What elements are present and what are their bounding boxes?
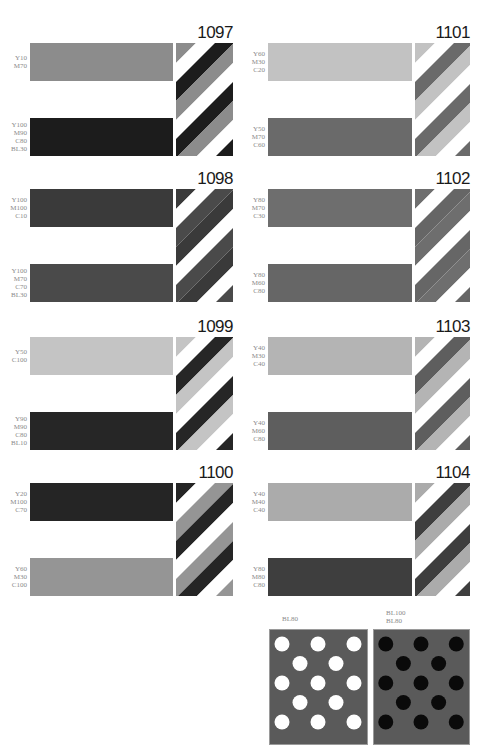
cmyk-label-bottom: Y40M60C80: [238, 419, 265, 443]
color-bar-top: [30, 337, 173, 375]
cmyk-value: C100: [0, 581, 27, 589]
cmyk-value: C80: [0, 431, 27, 439]
cmyk-value: C80: [238, 581, 265, 589]
swatch-card-1101: 1101Y60M30C20Y50M70C60: [238, 24, 478, 170]
cmyk-label-top: Y50C100: [0, 348, 27, 364]
color-bar-top: [268, 43, 412, 81]
cmyk-value: Y40: [238, 490, 265, 498]
diagonal-stripe-pattern: [176, 483, 233, 596]
color-bar-bottom: [30, 558, 173, 596]
cmyk-value: Y100: [0, 121, 27, 129]
diagonal-stripe-pattern: [415, 43, 470, 156]
cmyk-value: M90: [0, 423, 27, 431]
swatch-number: 1100: [176, 464, 233, 482]
cmyk-value: C80: [0, 137, 27, 145]
cmyk-label-top: Y10M70: [0, 54, 27, 70]
cmyk-value: M90: [0, 129, 27, 137]
color-bar-bottom: [268, 412, 412, 450]
cmyk-value: Y80: [238, 271, 265, 279]
swatch-number: 1102: [415, 170, 470, 188]
cmyk-label-bottom: Y80M80C80: [238, 565, 265, 589]
stripe-graphic: [415, 483, 470, 596]
cmyk-value: M30: [238, 58, 265, 66]
cmyk-label-top: Y40M30C40: [238, 344, 265, 368]
cmyk-value: M100: [0, 204, 27, 212]
cmyk-value: M70: [0, 275, 27, 283]
dot-pattern-panel: [270, 630, 367, 744]
cmyk-value: M70: [0, 62, 27, 70]
swatch-card-1098: 1098Y100M100C10Y100M70C70BL30: [0, 170, 240, 316]
cmyk-value: BL10: [0, 439, 27, 447]
cmyk-label-bottom: Y90M90C80BL10: [0, 415, 27, 447]
cmyk-value: Y20: [0, 490, 27, 498]
diagonal-stripe-pattern: [415, 483, 470, 596]
stripe-graphic: [415, 189, 470, 302]
cmyk-value: M70: [238, 204, 265, 212]
dot-panel-label: BL80: [282, 615, 298, 623]
cmyk-value: Y40: [238, 419, 265, 427]
cmyk-value: M30: [0, 573, 27, 581]
color-bar-top: [30, 483, 173, 521]
cmyk-label-top: Y60M30C20: [238, 50, 265, 74]
cmyk-value: BL30: [0, 291, 27, 299]
cmyk-value: C70: [0, 283, 27, 291]
swatch-number: 1098: [176, 170, 233, 188]
cmyk-value: Y90: [0, 415, 27, 423]
swatch-card-1103: 1103Y40M30C40Y40M60C80: [238, 318, 478, 464]
color-bar-bottom: [268, 264, 412, 302]
cmyk-value: M70: [238, 133, 265, 141]
diagonal-stripe-pattern: [176, 189, 233, 302]
cmyk-value: BL30: [0, 145, 27, 153]
stripe-graphic: [176, 189, 233, 302]
stripe-graphic: [176, 43, 233, 156]
cmyk-value: M60: [238, 279, 265, 287]
cmyk-label-bottom: Y60M30C100: [0, 565, 27, 589]
diagonal-stripe-pattern: [176, 43, 233, 156]
cmyk-value: Y50: [238, 125, 265, 133]
cmyk-value: M100: [0, 498, 27, 506]
swatch-card-1104: 1104Y40M40C40Y80M80C80: [238, 464, 478, 610]
swatch-number: 1097: [176, 24, 233, 42]
cmyk-value: C40: [238, 506, 265, 514]
cmyk-value: Y10: [0, 54, 27, 62]
blend-value: BL80: [282, 615, 298, 623]
color-bar-top: [268, 337, 412, 375]
color-bar-top: [268, 189, 412, 227]
color-bar-bottom: [30, 264, 173, 302]
cmyk-value: C40: [238, 360, 265, 368]
blend-value: BL80: [386, 617, 405, 625]
swatch-card-1099: 1099Y50C100Y90M90C80BL10: [0, 318, 240, 464]
cmyk-value: Y100: [0, 267, 27, 275]
swatch-number: 1101: [415, 24, 470, 42]
cmyk-value: Y80: [238, 196, 265, 204]
color-bar-bottom: [268, 118, 412, 156]
swatch-card-1100: 1100Y20M100C70Y60M30C100: [0, 464, 240, 610]
blend-value: BL100: [386, 609, 405, 617]
cmyk-value: M40: [238, 498, 265, 506]
diagonal-stripe-pattern: [415, 189, 470, 302]
color-bar-bottom: [30, 412, 173, 450]
stripe-graphic: [176, 483, 233, 596]
cmyk-label-bottom: Y100M70C70BL30: [0, 267, 27, 299]
swatch-card-1102: 1102Y80M70C30Y80M60C80: [238, 170, 478, 316]
diagonal-stripe-pattern: [176, 337, 233, 450]
swatch-card-1097: 1097Y10M70Y100M90C80BL30: [0, 24, 240, 170]
cmyk-value: C100: [0, 356, 27, 364]
cmyk-value: Y60: [238, 50, 265, 58]
cmyk-label-bottom: Y50M70C60: [238, 125, 265, 149]
cmyk-value: C80: [238, 287, 265, 295]
stripe-graphic: [415, 43, 470, 156]
stripe-graphic: [176, 337, 233, 450]
cmyk-value: C70: [0, 506, 27, 514]
diagonal-stripe-pattern: [415, 337, 470, 450]
color-bar-top: [268, 483, 412, 521]
cmyk-value: M60: [238, 427, 265, 435]
cmyk-value: Y50: [0, 348, 27, 356]
cmyk-value: Y60: [0, 565, 27, 573]
cmyk-label-top: Y40M40C40: [238, 490, 265, 514]
cmyk-value: C80: [238, 435, 265, 443]
swatch-number: 1099: [176, 318, 233, 336]
swatch-number: 1103: [415, 318, 470, 336]
cmyk-value: C60: [238, 141, 265, 149]
cmyk-value: C30: [238, 212, 265, 220]
